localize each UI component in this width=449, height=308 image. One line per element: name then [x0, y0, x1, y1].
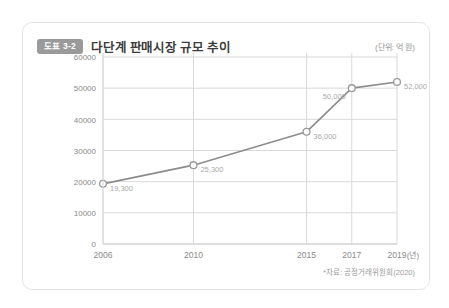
- chart-plot-area: 0100002000030000400005000060000200620102…: [23, 23, 431, 291]
- x-axis-tick-label: 2006: [94, 250, 113, 260]
- data-point-marker: [348, 85, 355, 92]
- y-axis-tick-label: 60000: [74, 53, 97, 62]
- y-axis-tick-label: 40000: [74, 116, 97, 125]
- x-axis-tick-label: 2019: [388, 250, 407, 260]
- line-chart: 0100002000030000400005000060000200620102…: [23, 23, 431, 291]
- x-axis-label: (년): [407, 250, 420, 260]
- chart-card: 도표 3-2 다단계 판매시장 규모 추이 (단위: 억 원) 01000020…: [22, 22, 430, 290]
- screenshot-root: 도표 3-2 다단계 판매시장 규모 추이 (단위: 억 원) 01000020…: [0, 0, 449, 308]
- data-point-label: 36,000: [314, 132, 337, 141]
- x-axis-tick-label: 2015: [297, 250, 316, 260]
- source-note: *자료: 공정거래위원회(2020): [323, 266, 415, 277]
- y-axis-tick-label: 50000: [74, 84, 97, 93]
- x-axis-tick-label: 2010: [184, 250, 203, 260]
- y-axis-tick-label: 0: [92, 240, 97, 249]
- x-axis-tick-label: 2017: [342, 250, 361, 260]
- data-point-label: 52,000: [404, 82, 427, 91]
- y-axis-tick-label: 30000: [74, 147, 97, 156]
- data-point-label: 25,300: [200, 165, 223, 174]
- data-point-marker: [394, 79, 401, 86]
- y-axis-tick-label: 20000: [74, 178, 97, 187]
- data-point-marker: [303, 128, 310, 135]
- data-point-label: 50,000: [323, 92, 346, 101]
- data-point-label: 19,300: [110, 184, 133, 193]
- y-axis-tick-label: 10000: [74, 209, 97, 218]
- data-series-line: [103, 82, 397, 184]
- data-point-marker: [190, 162, 197, 169]
